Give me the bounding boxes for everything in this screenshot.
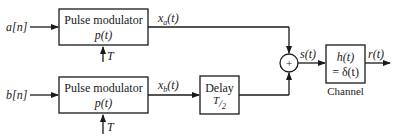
signal-xa-label: xa(t) <box>157 11 179 27</box>
channel-impulse-response: h(t) <box>337 50 354 64</box>
modulator-top-func: p(t) <box>94 28 112 42</box>
modulator-bottom-func: p(t) <box>94 96 112 110</box>
delay-value: T/2 <box>213 94 226 111</box>
channel-delta: = δ(t) <box>332 65 359 79</box>
signal-r-label: r(t) <box>368 47 384 61</box>
summer-plus-icon: + <box>286 57 292 69</box>
period-bottom-label: T <box>107 120 115 134</box>
signal-xb-label: xb(t) <box>157 78 179 94</box>
modulator-top-title: Pulse modulator <box>64 13 142 27</box>
channel-caption: Channel <box>327 85 364 97</box>
period-top-label: T <box>107 49 115 63</box>
delay-title: Delay <box>205 81 234 95</box>
input-b-label: b[n] <box>6 88 28 102</box>
modulator-bottom-title: Pulse modulator <box>64 81 142 95</box>
signal-s-label: s(t) <box>300 47 316 61</box>
input-a-label: a[n] <box>6 20 28 34</box>
block-diagram: a[n] Pulse modulator p(t) T xa(t) b[n] P… <box>0 0 398 138</box>
